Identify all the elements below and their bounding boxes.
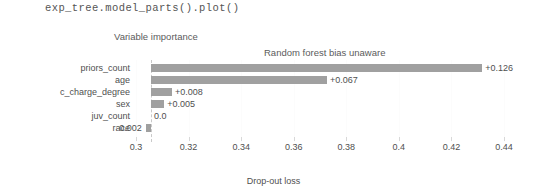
x-axis-tick-mark: [189, 137, 190, 141]
x-axis-tick-label: 0.36: [285, 142, 303, 152]
bar-row[interactable]: c_charge_degree+0.008: [0, 86, 536, 98]
bar-value-label: 0.002: [92, 122, 142, 134]
bar-value-label: +0.005: [167, 98, 195, 110]
x-axis-tick-mark: [451, 137, 452, 141]
x-axis-tick-label: 0.3: [130, 142, 143, 152]
x-axis-tick-label: 0.34: [232, 142, 250, 152]
y-axis-tick-label: priors_count: [0, 62, 130, 74]
notebook-output-cell: exp_tree.model_parts().plot() Variable i…: [0, 0, 536, 188]
x-axis-tick-mark: [399, 137, 400, 141]
bar[interactable]: [151, 64, 482, 72]
x-axis-label: Drop-out loss: [0, 166, 536, 188]
y-axis-tick-label: juv_count: [0, 110, 130, 122]
plot-panel: priors_count+0.126age+0.067c_charge_degr…: [0, 60, 536, 142]
x-axis-tick-mark: [504, 137, 505, 141]
chart-title: Variable importance: [114, 31, 198, 42]
bar[interactable]: [151, 76, 327, 84]
bar-value-label: 0.0: [154, 110, 167, 122]
code-cell-text: exp_tree.model_parts().plot(): [45, 2, 239, 14]
x-axis-tick-label: 0.38: [338, 142, 356, 152]
bar-value-label: +0.008: [175, 86, 203, 98]
bar[interactable]: [146, 124, 151, 132]
chart-subtitle: Random forest bias unaware: [264, 47, 385, 58]
x-axis-tick-label: 0.44: [495, 142, 513, 152]
x-axis: Drop-out loss 0.30.320.340.360.380.40.42…: [0, 142, 536, 188]
bar-value-label: +0.126: [485, 62, 513, 74]
y-axis-tick-label: sex: [0, 98, 130, 110]
bar-row[interactable]: age+0.067: [0, 74, 536, 86]
bar-row[interactable]: sex+0.005: [0, 98, 536, 110]
bar-row[interactable]: race0.002: [0, 122, 536, 134]
bar[interactable]: [151, 100, 164, 108]
x-axis-tick-mark: [294, 137, 295, 141]
x-axis-label-text: Drop-out loss: [247, 176, 301, 186]
x-axis-tick-label: 0.32: [180, 142, 198, 152]
bar-row[interactable]: priors_count+0.126: [0, 62, 536, 74]
x-axis-tick-label: 0.42: [443, 142, 461, 152]
bar-row[interactable]: juv_count0.0: [0, 110, 536, 122]
x-axis-tick-mark: [346, 137, 347, 141]
y-axis-tick-label: age: [0, 74, 130, 86]
x-axis-tick-mark: [241, 137, 242, 141]
bar[interactable]: [151, 88, 172, 96]
bar-value-label: +0.067: [330, 74, 358, 86]
y-axis-tick-label: c_charge_degree: [0, 86, 130, 98]
x-axis-tick-mark: [136, 137, 137, 141]
x-axis-tick-label: 0.4: [393, 142, 406, 152]
